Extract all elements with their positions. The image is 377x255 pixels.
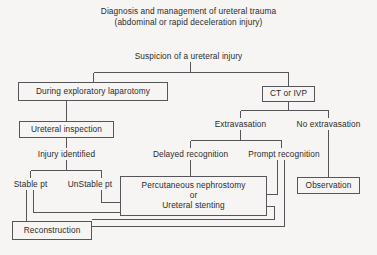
node-percutaneous-nephrostomy-or-ureteral-stenting[interactable]: Percutaneous nephrostomy or Ureteral ste… bbox=[120, 176, 267, 216]
node-unstable-pt: UnStable pt bbox=[60, 179, 120, 190]
node-stable-pt: Stable pt bbox=[5, 179, 56, 190]
node-during-exploratory-laparotomy[interactable]: During exploratory laparotomy bbox=[18, 82, 168, 101]
node-reconstruction[interactable]: Reconstruction bbox=[12, 221, 92, 240]
node-injury-identified: Injury identified bbox=[21, 149, 112, 160]
nephrostomy-text-line-3: Ureteral stenting bbox=[162, 201, 225, 211]
node-prompt-recognition: Prompt recognition bbox=[238, 149, 330, 160]
node-observation[interactable]: Observation bbox=[297, 177, 360, 194]
node-no-extravasation: No extravasation bbox=[288, 119, 369, 130]
node-ureteral-inspection[interactable]: Ureteral inspection bbox=[19, 121, 114, 138]
node-extravasation: Extravasation bbox=[204, 119, 277, 130]
flowchart-canvas: Diagnosis and management of ureteral tra… bbox=[0, 0, 377, 255]
node-ct-or-ivp[interactable]: CT or IVP bbox=[262, 86, 315, 102]
node-suspicion-of-ureteral-injury: Suspicion of a ureteral injury bbox=[0, 51, 377, 62]
node-delayed-recognition: Delayed recognition bbox=[141, 149, 240, 160]
